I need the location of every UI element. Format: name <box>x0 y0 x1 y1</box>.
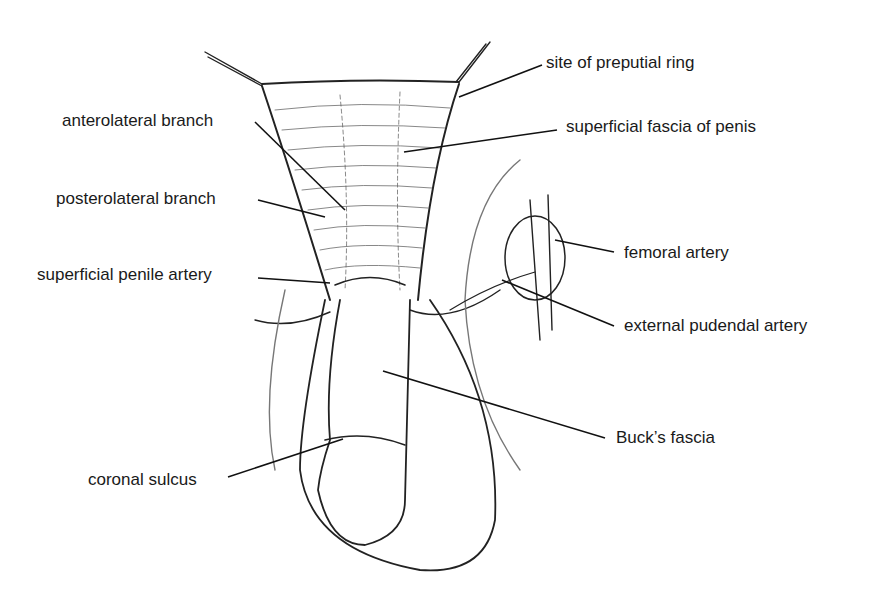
leader-line-coronal-sulcus <box>228 439 343 477</box>
leader-line-superficial-penile-artery <box>258 278 330 283</box>
label-superficial-penile-artery: superficial penile artery <box>37 265 212 285</box>
label-anterolateral-branch: anterolateral branch <box>62 111 213 131</box>
leader-line-anterolateral-branch <box>255 122 345 210</box>
label-external-pudendal-artery: external pudendal artery <box>624 316 807 336</box>
leader-line-posterolateral-branch <box>258 200 325 217</box>
label-coronal-sulcus: coronal sulcus <box>88 470 197 490</box>
penile-anatomy-illustration <box>0 0 887 614</box>
label-bucks-fascia: Buck’s fascia <box>616 428 715 448</box>
label-femoral-artery: femoral artery <box>624 243 729 263</box>
leader-line-bucks-fascia <box>383 371 605 438</box>
leader-line-site-of-preputial-ring <box>459 65 542 97</box>
label-posterolateral-branch: posterolateral branch <box>56 189 216 209</box>
anatomy-figure: site of preputial ringanterolateral bran… <box>0 0 887 614</box>
leader-line-superficial-fascia-of-penis <box>404 130 557 152</box>
label-site-of-preputial-ring: site of preputial ring <box>546 53 694 73</box>
leader-line-external-pudendal-artery <box>502 280 614 326</box>
label-superficial-fascia-of-penis: superficial fascia of penis <box>566 117 756 137</box>
